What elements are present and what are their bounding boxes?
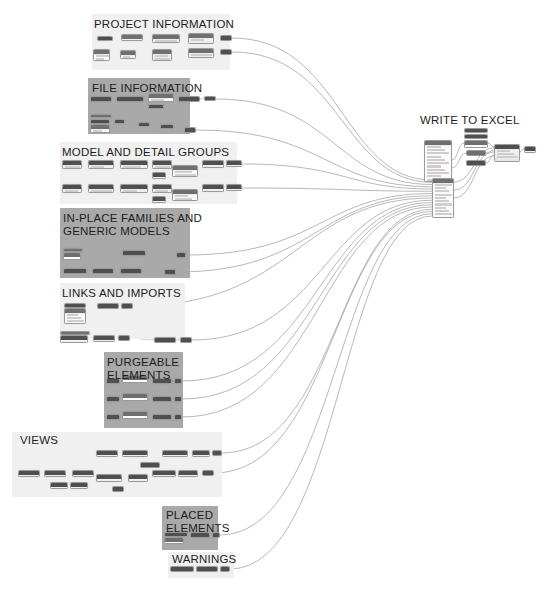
node-port-row xyxy=(497,150,510,152)
node[interactable] xyxy=(152,49,172,61)
node[interactable] xyxy=(97,36,113,41)
node[interactable] xyxy=(92,268,114,274)
node[interactable] xyxy=(70,482,88,489)
node[interactable] xyxy=(90,124,110,133)
node[interactable] xyxy=(180,337,192,343)
node-port-row xyxy=(435,184,453,186)
node[interactable] xyxy=(152,470,176,477)
node[interactable] xyxy=(18,470,40,477)
node[interactable] xyxy=(116,96,144,102)
node[interactable] xyxy=(178,96,200,102)
node[interactable] xyxy=(122,411,148,419)
node[interactable] xyxy=(204,96,216,101)
node[interactable] xyxy=(164,537,184,544)
node[interactable] xyxy=(152,196,166,203)
node[interactable] xyxy=(122,393,148,401)
node[interactable] xyxy=(162,450,188,457)
node[interactable] xyxy=(64,308,86,324)
node[interactable] xyxy=(128,474,148,482)
node[interactable] xyxy=(63,252,81,260)
node[interactable] xyxy=(188,33,214,44)
node[interactable] xyxy=(226,184,242,191)
node-body xyxy=(122,308,132,309)
node[interactable] xyxy=(93,335,115,342)
node[interactable] xyxy=(121,34,143,41)
node[interactable] xyxy=(424,140,452,182)
node[interactable] xyxy=(120,184,148,193)
node[interactable] xyxy=(494,144,520,162)
node[interactable] xyxy=(118,335,130,341)
node[interactable] xyxy=(202,160,224,168)
node[interactable] xyxy=(196,566,218,572)
node[interactable] xyxy=(152,414,172,420)
node[interactable] xyxy=(202,470,214,476)
node[interactable] xyxy=(88,184,114,193)
node[interactable] xyxy=(62,160,82,169)
node[interactable] xyxy=(172,189,198,201)
node[interactable] xyxy=(172,165,198,177)
node[interactable] xyxy=(464,134,488,139)
node[interactable] xyxy=(97,303,119,309)
node[interactable] xyxy=(178,470,198,477)
node[interactable] xyxy=(90,96,112,102)
dynamo-graph-canvas[interactable]: PROJECT INFORMATIONFILE INFORMATIONMODEL… xyxy=(0,0,548,604)
node[interactable] xyxy=(120,50,136,59)
node[interactable] xyxy=(140,462,160,468)
node[interactable] xyxy=(152,172,166,179)
node[interactable] xyxy=(466,160,486,166)
node[interactable] xyxy=(62,184,82,193)
node[interactable] xyxy=(464,140,488,148)
node[interactable] xyxy=(63,268,87,274)
node[interactable] xyxy=(106,414,120,420)
node[interactable] xyxy=(152,160,172,169)
node[interactable] xyxy=(90,114,112,118)
node[interactable] xyxy=(60,335,88,343)
node[interactable] xyxy=(96,450,118,457)
node[interactable] xyxy=(148,104,164,109)
node[interactable] xyxy=(120,160,148,169)
node[interactable] xyxy=(212,450,222,456)
node[interactable] xyxy=(96,474,122,482)
node[interactable] xyxy=(220,566,230,572)
node[interactable] xyxy=(120,268,142,274)
node[interactable] xyxy=(106,396,120,402)
node[interactable] xyxy=(152,396,172,402)
node[interactable] xyxy=(114,119,125,124)
node[interactable] xyxy=(152,184,172,193)
node[interactable] xyxy=(188,48,214,58)
node[interactable] xyxy=(44,470,66,477)
node[interactable] xyxy=(50,482,68,489)
node[interactable] xyxy=(220,49,232,55)
node[interactable] xyxy=(138,122,150,127)
node[interactable] xyxy=(466,150,486,156)
node-body xyxy=(141,467,159,468)
node-port-row xyxy=(96,55,109,57)
node[interactable] xyxy=(464,128,488,133)
node[interactable] xyxy=(174,414,182,420)
node[interactable] xyxy=(192,450,210,457)
node[interactable] xyxy=(432,178,454,218)
node[interactable] xyxy=(164,269,176,275)
node[interactable] xyxy=(170,566,194,572)
node[interactable] xyxy=(220,35,232,41)
node[interactable] xyxy=(122,250,146,256)
node-header xyxy=(153,50,171,54)
node[interactable] xyxy=(121,303,133,309)
node[interactable] xyxy=(88,160,114,169)
node[interactable] xyxy=(154,337,176,343)
node[interactable] xyxy=(226,160,242,167)
node[interactable] xyxy=(524,146,536,153)
node-body xyxy=(123,416,147,419)
node[interactable] xyxy=(174,396,182,402)
node[interactable] xyxy=(160,124,174,129)
node[interactable] xyxy=(72,470,94,477)
node[interactable] xyxy=(202,184,224,192)
node-port-row xyxy=(155,166,171,168)
node[interactable] xyxy=(122,450,148,457)
node[interactable] xyxy=(176,252,186,258)
node[interactable] xyxy=(112,486,124,492)
node[interactable] xyxy=(93,49,110,61)
node[interactable] xyxy=(152,34,180,43)
node-body xyxy=(175,401,181,402)
node[interactable] xyxy=(184,127,196,133)
